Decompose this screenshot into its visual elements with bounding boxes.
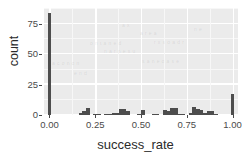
x-axis-tick-mark bbox=[233, 115, 234, 118]
x-axis-tick-mark bbox=[141, 115, 142, 118]
gridline-minor-vertical bbox=[72, 8, 73, 115]
x-axis-tick-label: 1.00 bbox=[213, 119, 250, 130]
gridline-major-vertical bbox=[141, 8, 142, 115]
gridline-major-vertical bbox=[187, 8, 188, 115]
y-axis-tick-mark bbox=[39, 54, 42, 55]
x-axis-ticks: 0.000.250.500.751.00 bbox=[0, 115, 249, 125]
gridline-major-vertical bbox=[95, 8, 96, 115]
y-axis-tick-label: 75 bbox=[12, 18, 38, 29]
x-axis-tick-mark bbox=[95, 115, 96, 118]
histogram-bar bbox=[86, 108, 90, 115]
x-axis-title: success_rate bbox=[0, 137, 249, 152]
plot-panel: a x a r e a o n t a n e d r x s o a d r … bbox=[44, 8, 238, 115]
x-axis-tick-label: 0.50 bbox=[121, 119, 161, 130]
x-axis-tick-mark bbox=[187, 115, 188, 118]
x-axis-tick-label: 0.00 bbox=[29, 119, 69, 130]
x-axis-title-text: success_rate bbox=[97, 137, 174, 152]
x-axis-tick-mark bbox=[49, 115, 50, 118]
y-axis-tick-mark bbox=[39, 85, 42, 86]
y-axis-tick-mark bbox=[39, 24, 42, 25]
y-axis-tick-label: 25 bbox=[12, 79, 38, 90]
gridline-minor-vertical bbox=[210, 8, 211, 115]
x-axis-tick-label: 0.25 bbox=[75, 119, 115, 130]
histogram-bar bbox=[48, 13, 52, 115]
gridline-minor-vertical bbox=[118, 8, 119, 115]
x-axis-tick-label: 0.75 bbox=[167, 119, 207, 130]
histogram-figure: count 0255075 a x a r e a o n t a n e d … bbox=[0, 0, 249, 163]
histogram-bar bbox=[231, 94, 235, 115]
y-axis-tick-label: 50 bbox=[12, 48, 38, 59]
gridline-minor-vertical bbox=[164, 8, 165, 115]
